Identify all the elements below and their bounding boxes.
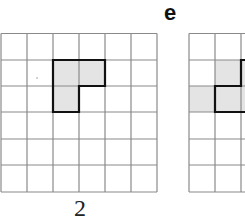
panel-letter-label: e xyxy=(164,0,176,26)
left-grid xyxy=(0,33,160,195)
left-grid-svg xyxy=(0,33,160,195)
speck xyxy=(36,77,38,79)
shaded-cell xyxy=(53,86,79,112)
right-grid xyxy=(188,33,245,195)
right-grid-svg xyxy=(188,33,245,195)
shaded-cell xyxy=(189,86,245,112)
panel-number-label: 2 xyxy=(68,196,92,219)
